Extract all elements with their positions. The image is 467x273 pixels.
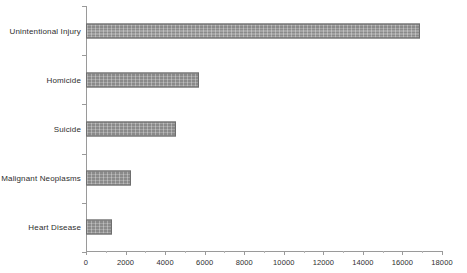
y-axis-tick <box>82 154 87 155</box>
x-axis-tick <box>363 251 364 255</box>
bar-suicide <box>86 121 176 136</box>
x-tick-label: 2000 <box>117 258 134 267</box>
x-axis-minor-tick <box>383 251 384 253</box>
x-tick-label: 16000 <box>392 258 413 267</box>
y-axis-tick <box>82 104 87 105</box>
y-tick-label: Malignant Neoplasms <box>1 174 81 183</box>
x-axis-minor-tick <box>343 251 344 253</box>
y-axis-tick <box>82 203 87 204</box>
x-axis-tick <box>126 251 127 255</box>
y-axis-tick <box>82 6 87 7</box>
y-tick-label: Suicide <box>54 124 81 133</box>
x-axis-minor-tick <box>145 251 146 253</box>
bar-row-heart-disease: Heart Disease <box>0 203 467 252</box>
x-axis-tick <box>402 251 403 255</box>
chart-title <box>90 0 390 5</box>
x-tick-label: 14000 <box>352 258 373 267</box>
x-axis-tick <box>165 251 166 255</box>
bar-row-malignant-neoplasms: Malignant Neoplasms <box>0 154 467 203</box>
bar-row-homicide: Homicide <box>0 55 467 104</box>
x-axis-tick <box>244 251 245 255</box>
x-tick-label: 6000 <box>196 258 213 267</box>
bar-homicide <box>86 72 199 87</box>
y-tick-label: Homicide <box>46 75 81 84</box>
x-axis-tick <box>323 251 324 255</box>
y-tick-label: Unintentional Injury <box>10 26 81 35</box>
bar-row-suicide: Suicide <box>0 104 467 153</box>
x-tick-label: 0 <box>84 258 88 267</box>
bar-unintentional-injury <box>86 23 420 38</box>
x-axis-tick <box>86 251 87 255</box>
x-axis-tick <box>442 251 443 255</box>
x-axis-minor-tick <box>264 251 265 253</box>
x-axis-minor-tick <box>304 251 305 253</box>
x-axis-minor-tick <box>185 251 186 253</box>
bar-heart-disease <box>86 220 112 235</box>
y-axis-tick <box>82 55 87 56</box>
x-tick-label: 4000 <box>157 258 174 267</box>
bar-row-unintentional-injury: Unintentional Injury <box>0 6 467 55</box>
y-tick-label: Heart Disease <box>28 223 81 232</box>
x-tick-label: 12000 <box>313 258 334 267</box>
x-tick-label: 18000 <box>431 258 452 267</box>
bar-chart: Unintentional Injury Homicide Suicide Ma… <box>0 0 467 273</box>
x-axis-minor-tick <box>422 251 423 253</box>
x-axis-minor-tick <box>106 251 107 253</box>
x-axis-minor-tick <box>224 251 225 253</box>
x-axis-tick <box>284 251 285 255</box>
x-axis-tick <box>205 251 206 255</box>
x-tick-label: 8000 <box>236 258 253 267</box>
x-tick-label: 10000 <box>273 258 294 267</box>
bar-malignant-neoplasms <box>86 171 131 186</box>
